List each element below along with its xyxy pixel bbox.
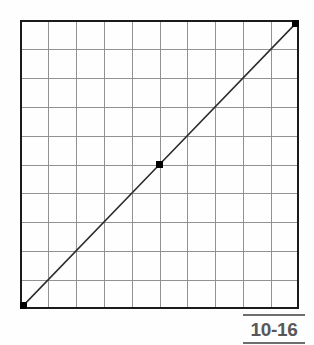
figure-caption: 10-16 [243, 314, 305, 344]
caption-label: 10-16 [243, 319, 305, 340]
figure-root: 10-16 [0, 0, 314, 345]
plot-area [20, 20, 299, 309]
caption-rule-top [243, 314, 305, 316]
caption-rule-bottom [243, 342, 305, 344]
grid-chart [20, 20, 299, 309]
